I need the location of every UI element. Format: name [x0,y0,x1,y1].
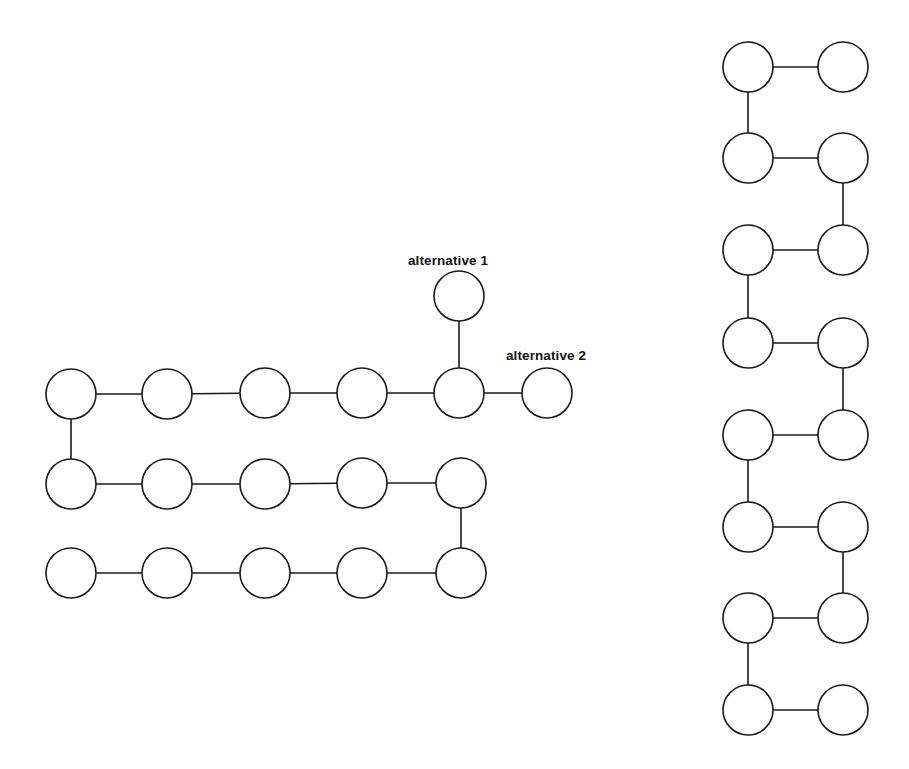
node-R-r4R [818,318,868,368]
node-R-r7L [723,593,773,643]
node-L-r2c3 [240,459,290,509]
node-R-r2R [818,133,868,183]
node-L-r2c4 [337,458,387,508]
node-R-r8L [723,685,773,735]
node-R-r8R [818,685,868,735]
node-L-alt1 [434,271,484,321]
labels-layer: alternative 1alternative 2 [408,253,586,363]
node-R-r3R [818,225,868,275]
node-L-r3c4 [337,548,387,598]
node-L-r2c1 [46,459,96,509]
node-R-r6R [818,502,868,552]
node-L-r1c3 [240,368,290,418]
node-link-diagram: alternative 1alternative 2 [0,0,909,769]
node-R-r4L [723,318,773,368]
node-R-r5L [723,410,773,460]
node-L-r1c5 [434,368,484,418]
node-L-r3c3 [240,548,290,598]
node-L-r1c2 [142,369,192,419]
label-ann-alt2: alternative 2 [506,348,586,363]
node-R-r5R [818,410,868,460]
node-R-r7R [818,593,868,643]
node-R-r6L [723,502,773,552]
node-L-r3c2 [142,548,192,598]
node-R-r3L [723,225,773,275]
node-L-r1c1 [46,369,96,419]
node-L-r3c5 [436,548,486,598]
node-L-r2c5 [436,458,486,508]
diagram-canvas: alternative 1alternative 2 [0,0,909,769]
node-L-alt2 [522,368,572,418]
node-R-r1L [723,42,773,92]
label-ann-alt1: alternative 1 [408,253,488,268]
node-R-r1R [818,42,868,92]
node-L-r2c2 [142,459,192,509]
node-L-r3c1 [46,548,96,598]
node-R-r2L [723,133,773,183]
node-L-r1c4 [337,368,387,418]
nodes-layer [46,42,868,735]
